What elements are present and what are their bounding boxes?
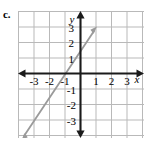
graph-figure: c. xyxy=(0,0,149,147)
x-tick-label: 3 xyxy=(124,75,130,87)
y-axis-label: y xyxy=(69,13,75,25)
coordinate-plane-svg: -3 -2 -1 1 2 3 3 2 1 -1 -2 -3 y x xyxy=(18,11,144,138)
coordinate-plane: -3 -2 -1 1 2 3 3 2 1 -1 -2 -3 y x xyxy=(18,11,144,138)
y-tick-label: 1 xyxy=(69,53,75,65)
part-label: c. xyxy=(3,9,10,20)
x-axis-label: x xyxy=(134,73,140,85)
y-tick-label: -1 xyxy=(67,84,76,96)
y-tick-label: -2 xyxy=(67,99,76,111)
x-tick-label: -2 xyxy=(45,75,54,87)
y-tick-label: -3 xyxy=(67,115,77,127)
y-tick-label: 2 xyxy=(69,37,75,49)
x-tick-label: 1 xyxy=(93,75,99,87)
x-tick-label: 2 xyxy=(109,75,115,87)
x-tick-label: -3 xyxy=(29,75,39,87)
